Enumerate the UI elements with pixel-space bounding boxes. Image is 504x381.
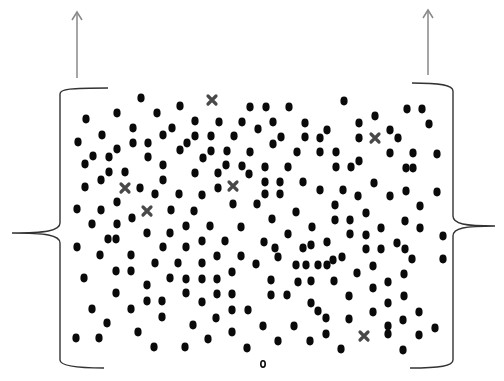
dot	[293, 148, 300, 157]
dot	[393, 239, 400, 248]
dot	[113, 109, 120, 118]
dot	[174, 259, 181, 268]
dot	[182, 275, 189, 284]
dot	[176, 146, 183, 155]
dot	[314, 307, 321, 316]
dot	[74, 138, 81, 147]
dot	[267, 291, 274, 300]
dot	[394, 134, 401, 143]
dot	[229, 200, 236, 209]
dot	[181, 343, 188, 352]
dot	[136, 184, 143, 193]
dot	[137, 94, 144, 103]
dot	[314, 261, 321, 270]
dot	[204, 335, 211, 344]
dot	[337, 345, 344, 354]
dot	[323, 238, 330, 247]
dot	[433, 188, 440, 197]
dot	[346, 216, 353, 225]
dot	[237, 223, 244, 232]
dot	[191, 132, 198, 141]
dot	[329, 256, 336, 265]
dot	[88, 305, 95, 314]
dot	[353, 269, 360, 278]
dot	[230, 132, 237, 141]
upward-arrows	[72, 10, 433, 78]
dot	[129, 139, 136, 148]
cross-marker-icon	[360, 332, 368, 340]
dot	[206, 222, 213, 231]
dot	[175, 190, 182, 199]
cross-marker-icon	[208, 96, 216, 104]
dot	[238, 118, 245, 127]
dot	[299, 244, 306, 253]
dot	[82, 115, 89, 124]
dot	[112, 267, 119, 276]
dot	[399, 316, 406, 325]
dot	[127, 305, 134, 314]
dot	[261, 163, 268, 172]
dot	[198, 191, 205, 200]
dot	[355, 157, 362, 166]
dot	[80, 274, 87, 283]
dot	[214, 169, 221, 178]
dot	[96, 251, 103, 260]
dot	[268, 215, 275, 224]
dot	[362, 245, 369, 254]
dot	[150, 343, 157, 352]
dot	[403, 105, 410, 114]
dot	[182, 289, 189, 298]
dot	[159, 243, 166, 252]
dot	[199, 154, 206, 163]
dot	[416, 202, 423, 211]
dot	[254, 125, 261, 134]
cross-marker-icon	[143, 207, 151, 215]
dot	[316, 148, 323, 157]
dot	[244, 306, 251, 315]
dot	[346, 230, 353, 239]
dot	[384, 278, 391, 287]
dot	[362, 209, 369, 218]
arrow-up-icon	[72, 12, 82, 78]
dot	[103, 319, 110, 328]
dot	[213, 290, 220, 299]
dot	[127, 251, 134, 260]
dot	[323, 261, 330, 270]
dot	[340, 97, 347, 106]
dot	[402, 187, 409, 196]
dot	[262, 103, 269, 112]
dot	[198, 259, 205, 268]
dot	[260, 238, 267, 247]
dot	[143, 281, 150, 290]
dot	[377, 224, 384, 233]
dot	[238, 162, 245, 171]
dot	[384, 330, 391, 339]
dot	[384, 299, 391, 308]
hollow-dot	[261, 361, 265, 367]
dot	[129, 124, 136, 133]
dot	[307, 241, 314, 250]
dot	[302, 261, 309, 270]
dot	[425, 120, 432, 129]
dot	[277, 133, 284, 142]
dot	[112, 289, 119, 298]
dot	[153, 109, 160, 118]
dot	[400, 292, 407, 301]
dot	[212, 314, 219, 323]
dot	[198, 275, 205, 284]
dot	[191, 169, 198, 178]
dot	[415, 331, 422, 340]
dot-scatter-diagram	[0, 0, 504, 381]
dot	[168, 124, 175, 133]
dot	[228, 306, 235, 315]
dot	[95, 334, 102, 343]
dot	[331, 216, 338, 225]
dot	[347, 163, 354, 172]
dot	[284, 230, 291, 239]
dot	[269, 140, 276, 149]
dot	[215, 118, 222, 127]
dot	[151, 259, 158, 268]
dot	[271, 244, 278, 253]
dot	[105, 168, 112, 177]
dot	[439, 232, 446, 241]
